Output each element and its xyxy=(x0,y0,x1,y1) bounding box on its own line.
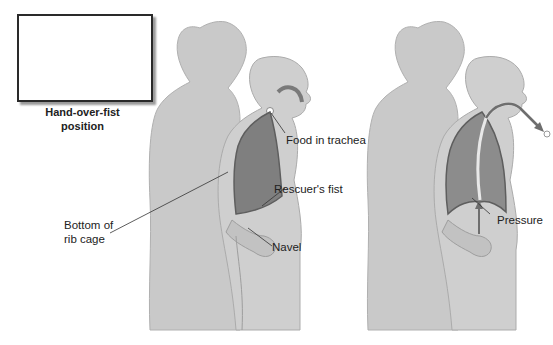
label-rescuers-fist: Rescuer's fist xyxy=(274,182,343,196)
label-pressure: Pressure xyxy=(497,213,543,227)
label-rib-line2: rib cage xyxy=(64,232,113,246)
label-navel: Navel xyxy=(272,240,301,254)
label-rib-line1: Bottom of xyxy=(64,218,113,232)
inset-caption-line1: Hand-over-fist xyxy=(10,105,155,119)
inset-caption: Hand-over-fist position xyxy=(10,105,155,133)
inset-caption-line2: position xyxy=(10,119,155,133)
hand-over-fist-inset xyxy=(17,14,153,102)
label-bottom-of-rib-cage: Bottom of rib cage xyxy=(64,218,113,246)
label-food-in-trachea: Food in trachea xyxy=(286,133,366,147)
expelled-food xyxy=(544,131,550,137)
